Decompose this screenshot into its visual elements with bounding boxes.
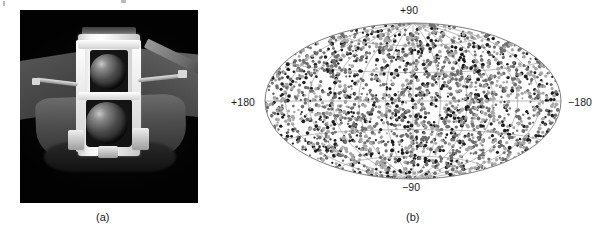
burst-point [384,168,387,171]
burst-point [351,80,354,83]
burst-point [447,157,450,160]
burst-point [314,65,317,68]
burst-point [319,56,322,59]
burst-point [522,141,526,145]
burst-point [375,106,377,108]
burst-point [422,47,425,50]
burst-point [453,113,457,117]
burst-point [336,72,339,75]
burst-point [315,51,318,54]
burst-point [401,103,403,105]
burst-point [556,108,560,112]
burst-point [400,118,404,122]
burst-point [401,87,404,90]
burst-point [350,85,353,88]
burst-point [401,50,405,54]
burst-point [477,106,480,109]
burst-point [500,158,503,161]
burst-point [470,152,472,154]
burst-point [375,45,378,48]
burst-point [477,117,481,121]
burst-point [337,58,340,61]
burst-point [420,109,423,112]
burst-point [457,104,459,106]
burst-point [312,98,316,102]
burst-point [344,130,347,133]
burst-point [380,119,383,122]
burst-point [387,55,391,59]
burst-point [384,113,388,117]
burst-point [334,131,337,134]
burst-point [518,72,522,76]
burst-point [426,141,428,143]
burst-point [394,35,397,38]
burst-point [455,89,458,92]
burst-point [353,117,356,120]
burst-point [436,28,438,30]
burst-point [293,63,296,66]
burst-point [415,31,419,35]
burst-point [398,124,401,127]
burst-point [350,94,352,96]
burst-point [491,95,494,98]
burst-point [473,128,476,131]
burst-point [320,119,322,121]
burst-point [462,30,464,32]
burst-point [351,88,353,90]
burst-point [350,45,352,47]
burst-point [285,66,287,68]
burst-point [495,158,499,162]
burst-point [273,96,277,100]
burst-point [313,147,316,150]
burst-point [380,68,383,71]
burst-point [484,112,488,116]
burst-point [423,147,426,150]
burst-point [353,103,356,106]
burst-point [423,166,425,168]
burst-point [481,156,484,159]
burst-point [496,151,499,154]
burst-point [428,47,432,51]
burst-point [424,125,428,129]
burst-point [296,69,299,72]
burst-point [519,145,522,148]
burst-point [499,84,502,87]
burst-point [519,138,522,141]
burst-point [398,33,401,36]
burst-point [345,106,347,108]
burst-point [338,123,341,126]
burst-point [401,101,404,104]
burst-point [314,87,317,90]
burst-point [435,148,438,151]
burst-point [349,163,352,166]
burst-point [438,130,441,133]
burst-point [437,68,439,70]
burst-point [337,36,341,40]
burst-point [427,121,431,125]
burst-point [440,87,443,90]
burst-point [390,123,393,126]
burst-point [387,32,390,35]
burst-point [331,147,335,151]
burst-point [458,38,460,40]
burst-point [298,59,301,62]
burst-point [435,124,438,127]
burst-point [432,138,435,141]
burst-point [418,86,422,90]
burst-point [348,140,351,143]
burst-point [379,36,383,40]
burst-point [322,127,326,131]
burst-point [375,172,378,175]
burst-point [270,114,274,118]
burst-point [327,117,329,119]
burst-point [395,49,398,52]
burst-point [472,152,474,154]
burst-point [375,94,377,96]
burst-point [378,79,380,81]
burst-point [442,77,445,80]
burst-point [408,145,412,149]
burst-point [382,154,385,157]
burst-point [334,139,337,142]
burst-point [443,65,445,67]
burst-point [389,157,392,160]
